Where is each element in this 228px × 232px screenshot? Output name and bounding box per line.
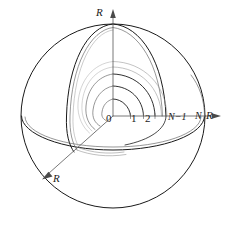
axis-depth-segment [48,116,113,174]
shell-label-n-minus-1: N−1 [168,112,186,122]
axis-horizontal-arrowhead [212,113,221,119]
sphere-cutaway-diagram [0,0,228,232]
figure-root: R R R 0 1 2 N−1 N [0,0,228,232]
shell-arc-0 [113,99,131,116]
axis-vertical-arrowhead [110,9,116,18]
meridian-cut-right-outer [113,24,166,116]
shell-arc-1 [113,86,144,116]
meridian-cut-left-faint [73,30,113,148]
cut-floor-hatching [77,148,126,156]
axis-label-depth-R: R [53,173,60,184]
shell-label-2: 2 [145,113,151,124]
shell-label-1: 1 [131,113,137,124]
meridian-cut-right-inner [113,28,163,117]
shell-label-0: 0 [106,113,112,124]
shell-arc-4-faint [113,62,167,117]
axis-label-vertical-R: R [96,7,103,18]
shell-label-n: N [195,111,202,121]
axis-label-horizontal-R: R [206,110,213,121]
